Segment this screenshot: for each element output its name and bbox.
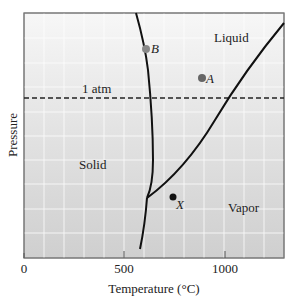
point-b-label: B [151, 41, 159, 56]
point-a-label: A [205, 71, 214, 86]
x-tick-label-500: 500 [114, 261, 134, 276]
point-a-marker [198, 74, 206, 82]
x-axis-title: Temperature (°C) [108, 281, 199, 296]
x-tick-label-1000: 1000 [212, 261, 238, 276]
phase-diagram: B A X Liquid Solid Vapor 1 atm 0 500 100… [0, 0, 294, 304]
x-tick-label-0: 0 [21, 261, 28, 276]
point-x-label: X [175, 197, 185, 212]
region-liquid-label: Liquid [214, 30, 249, 45]
region-solid-label: Solid [79, 157, 107, 172]
region-vapor-label: Vapor [228, 200, 260, 215]
y-axis-title: Pressure [5, 113, 20, 157]
one-atm-label: 1 atm [82, 81, 111, 96]
point-b-marker [142, 45, 150, 53]
